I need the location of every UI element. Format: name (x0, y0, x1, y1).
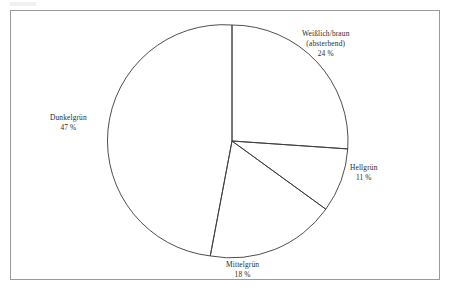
pie-label-mittelgruen: Mittelgrün 18 % (226, 260, 259, 280)
pie-chart-figure: Weißlich/braun (absterbend) 24 % Hellgrü… (0, 0, 452, 297)
pie-label-mittelgruen-value: 18 % (226, 270, 259, 280)
pie-label-weisslich-braun: Weißlich/braun (absterbend) 24 % (302, 29, 349, 59)
pie-slice-hellgruen (232, 141, 348, 209)
pie-label-hellgruen: Hellgrün 11 % (350, 163, 377, 183)
pie-label-dunkelgruen: Dunkelgrün 47 % (50, 113, 87, 133)
pie-label-dunkelgruen-name: Dunkelgrün (50, 113, 87, 123)
pie-slice-dunkelgruen (107, 25, 232, 256)
pie-slice-mittelgruen (210, 141, 326, 258)
pie-label-weisslich-braun-value: 24 % (302, 49, 349, 59)
pie-label-weisslich-braun-sub: (absterbend) (302, 39, 349, 49)
pie-label-weisslich-braun-name: Weißlich/braun (302, 29, 349, 39)
pie-label-hellgruen-name: Hellgrün (350, 163, 377, 173)
pie-label-hellgruen-value: 11 % (350, 173, 377, 183)
pie-label-mittelgruen-name: Mittelgrün (226, 260, 259, 270)
pie-label-dunkelgruen-value: 47 % (50, 123, 87, 133)
pie-chart-svg (0, 0, 452, 297)
